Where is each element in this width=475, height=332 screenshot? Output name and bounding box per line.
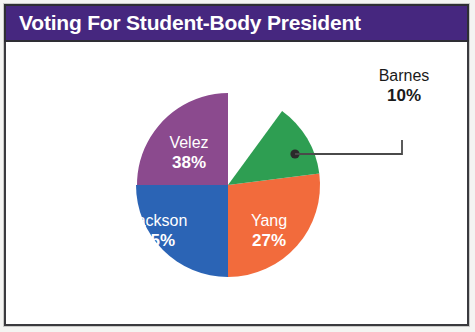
pie-slice-barnes[interactable] (228, 111, 319, 185)
pie-chart: Velez 38% Jackson 25% Yang 27% Barnes 10… (6, 44, 467, 324)
slice-label-barnes-name: Barnes (346, 67, 462, 85)
slice-label-barnes-value: 10% (346, 86, 462, 106)
slice-label-barnes: Barnes 10% (346, 67, 462, 106)
page-title: Voting For Student-Body President (6, 11, 361, 35)
pie-slice-yang[interactable] (228, 174, 320, 278)
chart-title-bar: Voting For Student-Body President (4, 4, 469, 42)
chart-screenshot: Voting For Student-Body President (0, 0, 475, 332)
pie-slice-jackson[interactable] (136, 185, 228, 277)
